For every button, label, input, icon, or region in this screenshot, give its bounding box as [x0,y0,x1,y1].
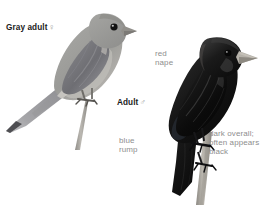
label-adult-male-text: Adult [117,98,138,107]
label-gray-adult-female: Gray adult♀ [6,23,55,33]
label-gray-adult-text: Gray adult [6,23,48,32]
dark-bird-bill [236,51,258,64]
label-adult-male: Adult♂ [117,98,146,108]
bird-identification-plate: Gray adult♀ Adult♂ red nape blue rump da… [0,0,265,205]
annotation-dark-overall: dark overall; often appears black [209,130,259,157]
gray-bird-bill [121,26,137,36]
dark-bird-head [199,37,242,77]
dark-bird-eye [225,50,232,56]
gray-bird-eye [110,24,117,31]
annotation-blue-rump: blue rump [119,137,138,155]
female-symbol-icon: ♀ [48,22,56,32]
male-symbol-icon: ♂ [138,97,146,107]
gray-bird-head [89,14,127,49]
annotation-red-nape: red nape [155,50,173,68]
